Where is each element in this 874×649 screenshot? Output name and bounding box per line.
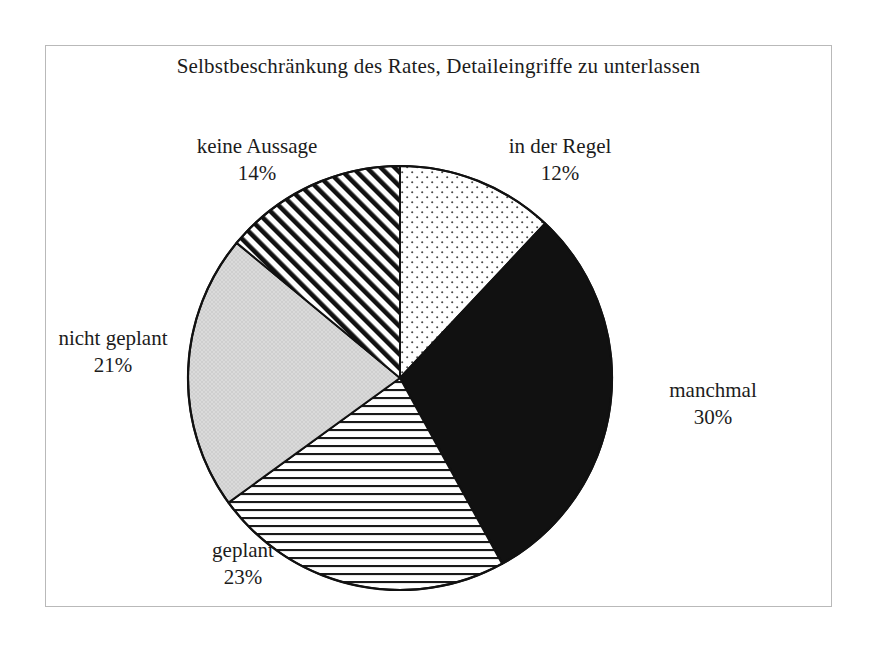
- pie-label-nicht-geplant-value: 21%: [18, 352, 208, 379]
- pie-label-nicht-geplant-name: nicht geplant: [18, 325, 208, 352]
- pie-slices-group: [188, 166, 612, 590]
- pie-label-geplant: geplant 23%: [148, 537, 338, 591]
- pie-chart-figure: Selbstbeschränkung des Rates, Detaileing…: [0, 0, 874, 649]
- pie-label-nicht-geplant: nicht geplant 21%: [18, 325, 208, 379]
- pie-label-manchmal-name: manchmal: [618, 377, 808, 404]
- pie-label-geplant-name: geplant: [148, 537, 338, 564]
- pie-label-in-der-regel-value: 12%: [455, 160, 665, 187]
- pie-label-in-der-regel-name: in der Regel: [455, 133, 665, 160]
- pie-label-keine-aussage-name: keine Aussage: [152, 133, 362, 160]
- pie-label-keine-aussage-value: 14%: [152, 160, 362, 187]
- pie-label-in-der-regel: in der Regel 12%: [455, 133, 665, 187]
- pie-label-geplant-value: 23%: [148, 564, 338, 591]
- pie-label-manchmal-value: 30%: [618, 404, 808, 431]
- pie-label-manchmal: manchmal 30%: [618, 377, 808, 431]
- pie-label-keine-aussage: keine Aussage 14%: [152, 133, 362, 187]
